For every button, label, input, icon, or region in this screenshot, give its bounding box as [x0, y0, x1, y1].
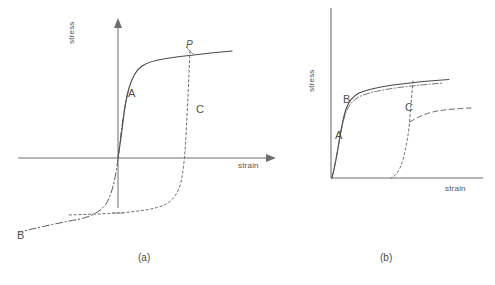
panel-b-plot-svg [295, 0, 495, 250]
panel-a-stress-strain-chart: stress strain A B C P (a) [0, 0, 300, 285]
panel-a-y-axis-label: stress [68, 21, 76, 44]
panel-b-reload-branch-dashed [410, 108, 471, 122]
panel-a-annotation-a: A [128, 88, 135, 99]
panel-b-annotation-a: A [335, 130, 342, 141]
panel-a-x-axis-label: strain [238, 162, 259, 170]
panel-a-loading-curve [118, 51, 232, 158]
panel-a-caption: (a) [138, 253, 150, 263]
panel-a-x-axis-arrowhead [266, 154, 276, 162]
panel-a-annotation-c: C [196, 104, 204, 115]
panel-a-reverse-branch-dashdot [20, 92, 128, 232]
panel-b-stress-strain-chart: stress strain A B C (b) [295, 0, 495, 285]
panel-a-annotation-p: P [186, 40, 193, 50]
panel-b-y-axis-label: stress [308, 69, 316, 92]
panel-b-unloading-path-dotted [391, 81, 413, 178]
figure-root: stress strain A B C P (a) stress strain … [0, 0, 495, 285]
panel-a-annotation-b: B [17, 230, 24, 241]
panel-b-caption: (b) [380, 253, 392, 263]
panel-b-annotation-b: B [343, 94, 350, 105]
panel-a-y-axis-arrowhead [114, 18, 122, 28]
panel-a-unloading-path-dotted [68, 51, 190, 215]
panel-b-annotation-c: C [405, 102, 413, 113]
panel-b-x-axis-label: strain [445, 185, 466, 193]
panel-a-plot-svg [0, 0, 300, 250]
